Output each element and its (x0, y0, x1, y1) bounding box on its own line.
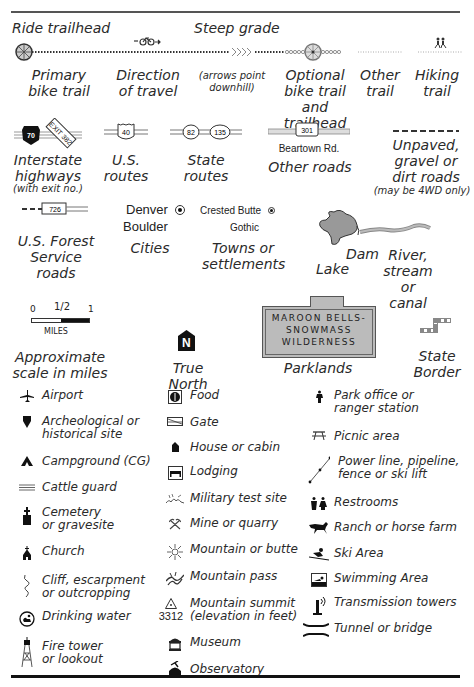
ski-icon (308, 548, 330, 561)
legend-mountain-pass: Mountain pass (164, 570, 277, 587)
legend-mountain: Mountain or butte (164, 543, 298, 560)
legend-summit: 3312 Mountain summit(elevation in feet) (156, 597, 297, 623)
forest-roads-label: U.S. ForestService roads (12, 233, 100, 281)
unpaved-road-symbol (393, 128, 459, 134)
town-example-crested-butte: Crested Butte (200, 205, 275, 216)
cities-label: Cities (124, 240, 176, 256)
campground-icon (16, 456, 38, 466)
town-dot-icon (268, 207, 275, 214)
legend-church: Church (16, 545, 85, 560)
state-routes-label: Stateroutes (176, 152, 236, 184)
other-roads-label: Other roads (262, 159, 358, 175)
legend-ski: Ski Area (308, 547, 384, 561)
legend-mine: Mine or quarry (164, 517, 278, 530)
legend-tunnel: Tunnel or bridge (302, 622, 432, 637)
legend-cemetery: Cemeteryor gravesite (16, 506, 114, 532)
state-route-symbol: 82 135 (170, 122, 242, 142)
military-site-icon (164, 493, 186, 505)
legend-cliff: Cliff, escarpmentor outcropping (16, 574, 145, 600)
unpaved-note: (may be 4WD only) (372, 185, 472, 197)
mountain-pass-icon (164, 571, 186, 587)
river-label: River,streamor canal (380, 247, 436, 311)
picnic-icon (308, 431, 330, 440)
state-border-label: StateBorder (412, 348, 462, 380)
swimming-icon (308, 573, 330, 587)
optional-trailhead-wheel-icon (305, 44, 321, 60)
house-icon (164, 442, 186, 452)
interstate-symbol: 70 EXIT 382 (14, 118, 86, 152)
parkland-sign: MAROON BELLS-SNOWMASSWILDERNESS (262, 306, 376, 358)
legend-cattle-guard: Cattle guard (16, 481, 117, 494)
unpaved-label: Unpaved,gravel ordirt roads (384, 137, 468, 185)
legend-airport: Airport (16, 389, 83, 402)
legend-museum: Museum (164, 636, 241, 651)
legend-drinking-water: Drinking water (16, 610, 131, 627)
interstate-label: Interstatehighways (10, 152, 86, 184)
other-trail-label: Othertrail (355, 67, 405, 99)
legend-food: Food (164, 389, 219, 404)
svg-text:82: 82 (187, 129, 195, 136)
legend-park-office: Park office orranger station (308, 389, 419, 415)
scale-label: Approximatescale in miles (12, 349, 108, 381)
transmission-tower-icon (308, 597, 330, 615)
svg-text:301: 301 (301, 127, 313, 134)
bottom-rule (11, 675, 460, 678)
svg-text:70: 70 (27, 132, 35, 139)
legend-military: Military test site (164, 492, 287, 505)
steep-grade-label: Steep grade (194, 20, 280, 36)
legend-campground: Campground (CG) (16, 455, 151, 468)
us-routes-label: U.S.routes (96, 152, 156, 184)
town-example-gothic: Gothic (230, 222, 259, 233)
lake-icon (320, 210, 358, 244)
mountain-icon (164, 544, 186, 560)
legend-lodging: Lodging (164, 465, 238, 480)
interstate-note: (with exit no.) (8, 183, 88, 195)
city-dot-icon (175, 205, 185, 215)
trailhead-wheel-icon (16, 44, 32, 60)
trail-line-graphic (12, 36, 462, 64)
towns-label: Towns orsettlements (202, 240, 284, 272)
city-example-boulder: Boulder (123, 219, 168, 234)
svg-text:726: 726 (49, 206, 61, 213)
church-icon (16, 546, 38, 560)
top-rule (11, 11, 460, 13)
exit-sign-icon: EXIT 382 (46, 118, 76, 148)
bicycle-direction-icon (134, 38, 160, 45)
legend-power-line: Power line, pipeline,fence or ski lift (308, 455, 459, 484)
legend-transmission: Transmission towers (308, 596, 457, 615)
ranch-icon (308, 522, 330, 534)
road-name-example: Beartown Rd. (268, 143, 350, 154)
svg-text:135: 135 (214, 129, 226, 136)
gate-icon (164, 417, 186, 426)
legend-archeological: Archeological orhistorical site (16, 415, 139, 441)
parklands-label: Parklands (278, 360, 358, 376)
mine-icon (164, 518, 186, 530)
cattle-guard-icon (16, 482, 38, 492)
food-icon (164, 390, 186, 404)
cliff-icon (16, 575, 38, 597)
dam-label: Dam (346, 246, 379, 262)
power-line-icon (308, 456, 330, 484)
hiking-trail-label: Hikingtrail (410, 67, 464, 99)
hikers-icon (435, 38, 446, 49)
primary-bike-trail-label: Primarybike trail (18, 67, 100, 99)
lake-label: Lake (316, 261, 349, 277)
city-example-denver: Denver (126, 202, 185, 217)
lodging-icon (164, 466, 186, 480)
airplane-icon (16, 390, 38, 402)
direction-of-travel-label: Directionof travel (108, 67, 188, 99)
scale-unit: MILES (44, 327, 68, 336)
other-road-symbol: 301 (268, 122, 350, 142)
true-north-icon: N (178, 330, 195, 351)
parkland-sign-tab (310, 296, 344, 307)
fire-tower-icon (16, 637, 38, 667)
museum-icon (164, 637, 186, 651)
cemetery-icon (16, 507, 38, 525)
summit-icon: 3312 (156, 598, 186, 623)
us-route-symbol: 40 (104, 122, 148, 142)
state-border-icon (420, 316, 454, 336)
legend-ranch: Ranch or horse farm (308, 521, 457, 534)
steep-grade-arrows-icon (232, 48, 251, 56)
park-office-icon (308, 390, 330, 403)
svg-text:40: 40 (122, 129, 130, 136)
